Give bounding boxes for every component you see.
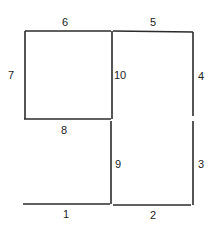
segment-diagram: 12345678910 [0, 0, 211, 228]
segment-label-10: 10 [114, 69, 126, 81]
segment-5 [113, 31, 193, 32]
segment-label-6: 6 [62, 16, 68, 28]
segment-label-3: 3 [198, 158, 204, 170]
segment-label-2: 2 [150, 209, 156, 221]
segment-label-4: 4 [198, 70, 204, 82]
segment-label-8: 8 [61, 124, 67, 136]
segment-label-7: 7 [8, 69, 14, 81]
segment-label-5: 5 [150, 16, 156, 28]
segment-label-9: 9 [115, 158, 121, 170]
segment-label-1: 1 [63, 208, 69, 220]
